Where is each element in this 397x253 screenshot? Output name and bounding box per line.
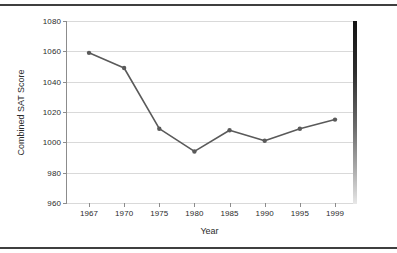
x-tick-mark (265, 203, 266, 207)
x-tick-mark (300, 203, 301, 207)
data-point-marker (122, 66, 126, 70)
x-tick-mark (159, 203, 160, 207)
x-tick-mark (194, 203, 195, 207)
x-tick-mark (230, 203, 231, 207)
x-tick-mark (124, 203, 125, 207)
data-point-marker (298, 126, 302, 130)
y-tick-label: 960 (47, 199, 61, 208)
data-point-marker (227, 128, 231, 132)
x-tick-mark (335, 203, 336, 207)
data-point-marker (192, 149, 196, 153)
y-tick-mark (63, 203, 67, 204)
data-point-marker (157, 126, 161, 130)
data-point-marker (333, 117, 337, 121)
y-tick-label: 1060 (43, 47, 61, 56)
x-tick-label: 1985 (220, 209, 238, 218)
x-tick-mark (89, 203, 90, 207)
chart-figure: Combined SAT Score 960980100010201040106… (0, 0, 397, 253)
x-tick-label: 1970 (115, 209, 133, 218)
figure-bottom-rule (0, 247, 397, 249)
x-tick-label: 1975 (150, 209, 168, 218)
x-tick-label: 1995 (291, 209, 309, 218)
y-tick-label: 1040 (43, 77, 61, 86)
x-tick-label: 1980 (185, 209, 203, 218)
gridline (67, 203, 353, 204)
x-tick-label: 1999 (326, 209, 344, 218)
y-tick-label: 980 (47, 168, 61, 177)
data-point-marker (263, 139, 267, 143)
series-line-group (67, 21, 353, 203)
y-axis-title: Combined SAT Score (16, 21, 26, 204)
data-point-marker (87, 51, 91, 55)
y-tick-label: 1020 (43, 108, 61, 117)
x-axis-title: Year (66, 226, 353, 236)
y-tick-label: 1000 (43, 138, 61, 147)
figure-top-rule (0, 4, 397, 6)
x-tick-label: 1990 (256, 209, 274, 218)
plot-area: 96098010001020104010601080 1967197019751… (66, 21, 353, 204)
y-tick-label: 1080 (43, 17, 61, 26)
x-tick-label: 1967 (80, 209, 98, 218)
